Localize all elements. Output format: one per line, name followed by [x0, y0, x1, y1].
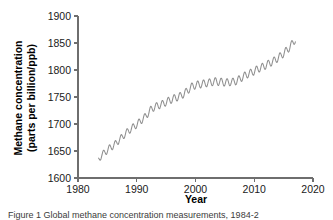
y-axis-tick-label: 1750	[48, 91, 72, 103]
x-axis-tick-label: 1990	[125, 183, 149, 195]
y-axis-tick-label: 1600	[48, 172, 72, 184]
x-axis-tick-label: 2010	[243, 183, 267, 195]
chart-plot-area: 1600165017001750180018501900 19801990200…	[0, 0, 333, 205]
y-axis-tick-labels: 1600165017001750180018501900	[48, 10, 72, 184]
x-axis-tick-label: 1980	[66, 183, 90, 195]
y-axis-tick-label: 1900	[48, 10, 72, 22]
y-axis-title-line-2: (parts per billion/ppb)	[25, 44, 37, 152]
figure-caption: Figure 1 Global methane concentration me…	[8, 210, 328, 220]
y-axis-title-line-1: Methane concentration	[12, 41, 24, 156]
y-axis-tick-label: 1650	[48, 145, 72, 157]
methane-concentration-line	[99, 41, 296, 161]
x-axis-title: Year	[185, 193, 207, 205]
x-axis-tick-label: 2020	[301, 183, 325, 195]
methane-concentration-figure: 1600165017001750180018501900 19801990200…	[0, 0, 333, 220]
line-chart-svg: 1600165017001750180018501900 19801990200…	[0, 0, 333, 205]
y-axis-tick-label: 1700	[48, 118, 72, 130]
y-axis-tick-label: 1800	[48, 64, 72, 76]
axis-frame-lines	[78, 16, 313, 178]
y-axis-tick-label: 1850	[48, 37, 72, 49]
axes-group	[74, 16, 313, 182]
data-series-group	[99, 41, 296, 161]
